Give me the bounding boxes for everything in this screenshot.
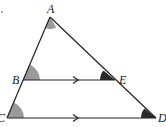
label-B: B bbox=[12, 73, 20, 87]
label-C: C bbox=[0, 111, 6, 125]
stray-dot bbox=[1, 11, 3, 13]
triangle-diagram: A B C E D bbox=[0, 0, 166, 127]
segment-AD bbox=[50, 17, 156, 118]
label-A: A bbox=[46, 2, 55, 16]
angle-mark-C bbox=[7, 102, 24, 118]
segment-AC bbox=[7, 17, 50, 118]
label-D: D bbox=[157, 111, 166, 125]
label-E: E bbox=[118, 73, 127, 87]
angle-mark-B bbox=[23, 65, 40, 81]
